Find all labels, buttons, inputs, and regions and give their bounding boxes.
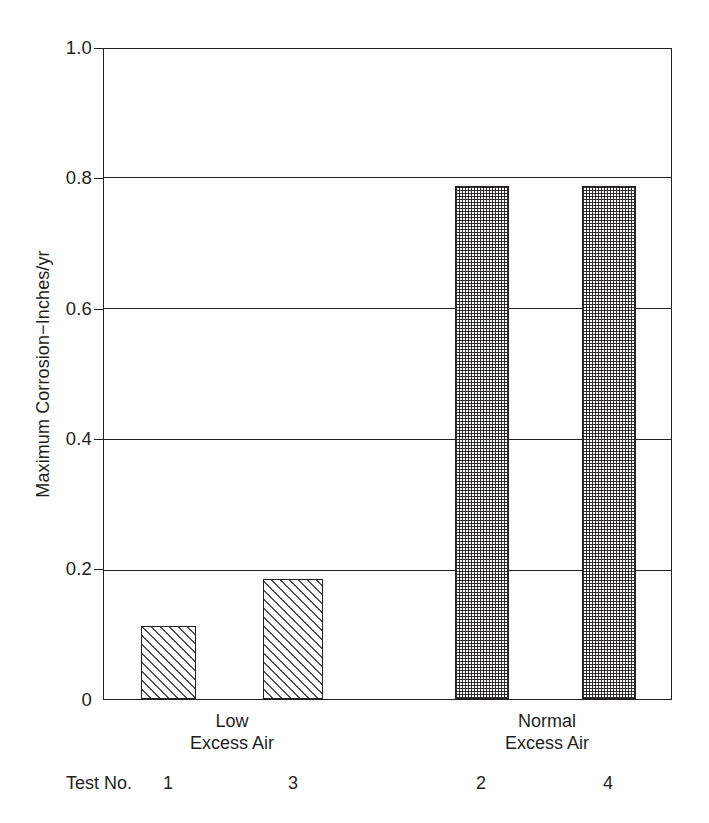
y-tick-label-0.6: 0.6 (44, 300, 92, 319)
y-tick-mark-0.2 (94, 569, 103, 570)
test-no-value-3: 3 (273, 772, 313, 794)
y-tick-mark-0.8 (94, 178, 103, 179)
bar-test-1 (141, 626, 196, 699)
y-tick-mark-0.6 (94, 309, 103, 310)
y-tick-mark-1.0 (94, 48, 103, 49)
group-label-normal: Normal Excess Air (467, 710, 627, 754)
y-axis-title: Maximum Corrosion−Inches/yr (30, 48, 56, 700)
group-label-low: Low Excess Air (152, 710, 312, 754)
group-label-normal-line2: Excess Air (467, 732, 627, 754)
test-no-value-4: 4 (588, 772, 628, 794)
y-tick-label-0: 0 (44, 691, 92, 710)
y-tick-label-0.8: 0.8 (44, 169, 92, 188)
y-tick-label-0.4: 0.4 (44, 430, 92, 449)
group-label-low-line1: Low (152, 710, 312, 732)
bar-test-3 (263, 579, 323, 699)
y-tick-label-1.0: 1.0 (44, 39, 92, 58)
test-no-value-2: 2 (461, 772, 501, 794)
y-tick-mark-0.4 (94, 439, 103, 440)
test-no-prefix: Test No. (66, 772, 132, 794)
bar-test-2 (455, 186, 509, 700)
gridline-0.8 (104, 177, 671, 178)
plot-area (103, 48, 672, 700)
group-label-low-line2: Excess Air (152, 732, 312, 754)
y-tick-label-0.2: 0.2 (44, 560, 92, 579)
test-no-value-1: 1 (148, 772, 188, 794)
group-label-normal-line1: Normal (467, 710, 627, 732)
bar-test-4 (582, 186, 636, 700)
bar-chart: Maximum Corrosion−Inches/yr 1.0 0.8 0.6 … (0, 0, 709, 823)
